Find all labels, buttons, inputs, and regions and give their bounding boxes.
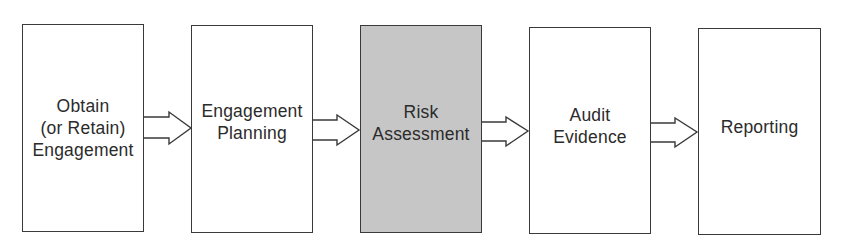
stage-reporting: Reporting	[698, 28, 821, 235]
stage-obtain-engagement: Obtain (or Retain) Engagement	[22, 24, 144, 232]
stage-label: Audit Evidence	[553, 104, 627, 148]
arrow-icon	[312, 115, 359, 145]
arrow-icon	[481, 117, 528, 146]
arrow-icon	[143, 112, 191, 144]
stage-label: Risk Assessment	[372, 101, 469, 145]
stage-engagement-planning: Engagement Planning	[191, 25, 313, 233]
stage-audit-evidence: Audit Evidence	[529, 27, 651, 234]
stage-risk-assessment: Risk Assessment	[360, 25, 482, 233]
stage-label: Obtain (or Retain) Engagement	[32, 95, 133, 161]
audit-process-flow-diagram: Obtain (or Retain) Engagement Engagement…	[0, 0, 841, 241]
arrow-icon	[650, 118, 697, 147]
stage-label: Reporting	[721, 116, 799, 138]
stage-label: Engagement Planning	[201, 100, 302, 144]
